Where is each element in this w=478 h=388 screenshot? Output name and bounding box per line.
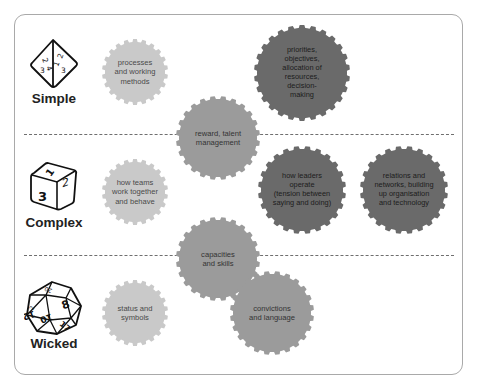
gear-leaders <box>258 146 346 234</box>
die-number: 3 <box>61 66 66 75</box>
die-number: 2 <box>62 174 69 190</box>
cube-die-icon: 1 3 2 <box>28 160 80 212</box>
tetrahedron-die-icon: 2 4 3 1 2 3 <box>26 37 82 89</box>
gear-reward <box>176 96 260 180</box>
category-label-simple: Simple <box>19 91 89 106</box>
gear-processes <box>102 39 168 105</box>
category-label-wicked: Wicked <box>19 336 89 351</box>
gear-priorities <box>254 25 350 121</box>
gear-relations <box>360 146 448 234</box>
gear-status <box>102 280 168 346</box>
category-label-complex: Complex <box>19 215 89 230</box>
die-number: 3 <box>38 189 47 204</box>
die-number: 3 <box>40 66 45 75</box>
icosahedron-die-icon: 20 8 12 10 17 2 <box>24 280 84 336</box>
gear-teams <box>102 159 168 225</box>
